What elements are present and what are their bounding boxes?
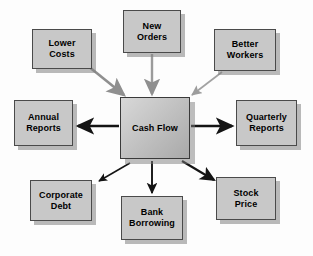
node-corporate-debt[interactable]: Corporate Debt (30, 180, 92, 221)
node-new-orders[interactable]: New Orders (123, 10, 181, 53)
node-bank-borrowing[interactable]: Bank Borrowing (121, 196, 183, 240)
node-lower-costs-label: Lower Costs (46, 38, 77, 60)
node-better-workers-label: Better Workers (225, 39, 266, 61)
connection-better-workers-to-cash-flow (192, 72, 222, 95)
node-corporate-debt-label: Corporate Debt (37, 190, 85, 212)
node-stock-price-label: Stock Price (231, 188, 260, 210)
node-better-workers[interactable]: Better Workers (214, 29, 276, 71)
node-annual-reports-label: Annual Reports (24, 112, 63, 134)
node-annual-reports[interactable]: Annual Reports (14, 100, 73, 146)
node-new-orders-label: New Orders (135, 21, 169, 43)
cash-flow-diagram: Lower Costs New Orders Better Workers An… (0, 0, 313, 256)
node-lower-costs[interactable]: Lower Costs (32, 29, 92, 69)
node-bank-borrowing-label: Bank Borrowing (127, 207, 177, 229)
connection-cash-flow-to-stock-price (182, 161, 214, 180)
connection-lower-costs-to-cash-flow (88, 66, 124, 95)
node-cash-flow-label: Cash Flow (130, 123, 180, 134)
node-quarterly-reports[interactable]: Quarterly Reports (236, 100, 297, 146)
node-quarterly-reports-label: Quarterly Reports (244, 112, 289, 134)
node-cash-flow[interactable]: Cash Flow (120, 97, 190, 159)
connection-cash-flow-to-corporate-debt (99, 163, 130, 181)
node-stock-price[interactable]: Stock Price (216, 177, 276, 220)
